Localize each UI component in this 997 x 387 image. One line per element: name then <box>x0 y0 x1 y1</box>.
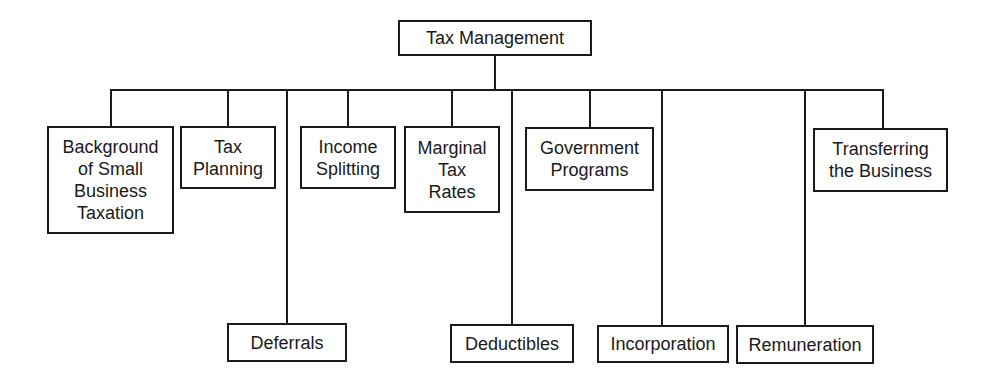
node-income-splitting: Income Splitting <box>300 126 396 189</box>
node-government-programs: Government Programs <box>525 127 654 191</box>
node-background-of-small-business-taxation: Background of Small Business Taxation <box>47 126 174 234</box>
node-marginal-tax-rates: Marginal Tax Rates <box>404 126 500 213</box>
node-transferring-the-business: Transferring the Business <box>813 128 948 192</box>
node-deferrals: Deferrals <box>227 323 347 362</box>
node-incorporation: Incorporation <box>597 325 729 363</box>
node-tax-management: Tax Management <box>398 20 592 56</box>
node-remuneration: Remuneration <box>736 325 874 364</box>
node-deductibles: Deductibles <box>450 324 574 363</box>
node-tax-planning: Tax Planning <box>180 126 276 189</box>
